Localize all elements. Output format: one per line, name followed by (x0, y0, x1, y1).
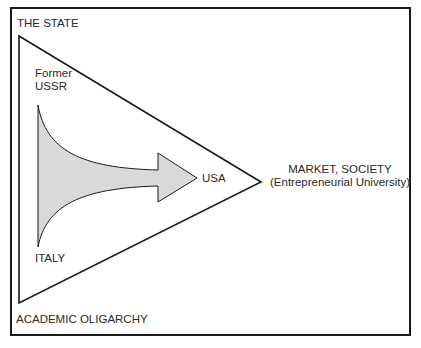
label-academic-oligarchy: ACADEMIC OLIGARCHY (16, 313, 148, 326)
label-usa: USA (202, 172, 226, 185)
label-the-state: THE STATE (17, 17, 79, 30)
label-former-ussr: Former USSR (35, 67, 72, 93)
label-market-society-line2: (Entrepreneurial University) (264, 176, 416, 189)
label-former-ussr-line1: Former (35, 67, 72, 80)
label-market-society-line1: MARKET, SOCIETY (264, 163, 416, 176)
label-market-society: MARKET, SOCIETY (Entrepreneurial Univers… (264, 163, 416, 189)
label-italy: ITALY (35, 252, 65, 265)
label-former-ussr-line2: USSR (35, 80, 72, 93)
